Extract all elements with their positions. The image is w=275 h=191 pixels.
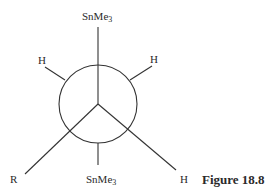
front-bond-bottom-left (25, 104, 98, 174)
label-back-top-left: H (38, 54, 46, 66)
label-front-bottom-left: R (10, 173, 18, 185)
label-front-bottom-right: H (180, 173, 188, 185)
back-bond-top-right (130, 66, 152, 80)
label-back-bottom: SnMe3 (86, 173, 116, 187)
label-front-top: SnMe3 (82, 10, 112, 24)
back-bond-top-left (45, 67, 65, 80)
figure-caption: Figure 18.8 (202, 172, 265, 187)
newman-projection: SnMe3 H H R SnMe3 H Figure 18.8 (0, 0, 275, 191)
label-back-top-right: H (150, 53, 158, 65)
front-bond-bottom-right (98, 104, 176, 170)
